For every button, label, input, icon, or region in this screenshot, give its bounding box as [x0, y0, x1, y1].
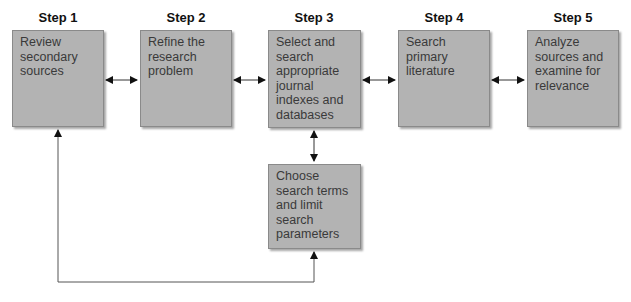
step-1-label: Step 1 — [12, 10, 104, 25]
step-2-label: Step 2 — [140, 10, 232, 25]
step-3-label: Step 3 — [268, 10, 360, 25]
step-1-box: Review secondary sources — [12, 30, 104, 127]
step-5-label: Step 5 — [527, 10, 619, 25]
step-4-box: Search primary literature — [398, 30, 490, 127]
step-5-box: Analyze sources and examine for relevanc… — [527, 30, 619, 127]
step-4-label: Step 4 — [398, 10, 490, 25]
step-2-box: Refine the research problem — [140, 30, 232, 127]
choose-search-terms-box: Choose search terms and limit search par… — [268, 164, 361, 249]
step-3-box: Select and search appropriate journal in… — [268, 30, 361, 128]
